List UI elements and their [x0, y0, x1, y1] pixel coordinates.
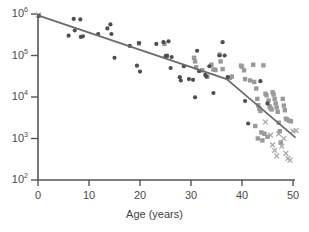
- data-point-square: [255, 97, 259, 101]
- data-point-square: [220, 67, 224, 71]
- data-point-square: [261, 63, 265, 67]
- data-point-circle: [161, 40, 165, 44]
- data-point-square: [278, 129, 282, 133]
- data-point-square: [251, 63, 255, 67]
- data-point-x: [263, 120, 268, 125]
- data-point-circle: [72, 17, 76, 21]
- data-point-circle: [169, 66, 173, 70]
- data-point-square: [272, 97, 276, 101]
- data-point-circle: [108, 22, 112, 26]
- data-point-circle: [191, 78, 195, 82]
- data-point-x: [274, 154, 279, 159]
- data-point-circle: [246, 121, 250, 125]
- data-point-circle: [223, 53, 227, 57]
- trend-line: [38, 15, 296, 137]
- data-point-square: [253, 124, 257, 128]
- y-tick-label: 104: [0, 89, 28, 102]
- data-point-circle: [170, 55, 174, 59]
- x-tick-label: 10: [74, 189, 104, 201]
- data-point-x: [272, 148, 277, 153]
- data-point-circle: [138, 69, 142, 73]
- data-point-circle: [81, 34, 85, 38]
- chart-figure: 102103104105106 01020304050 Age (years): [0, 0, 309, 232]
- x-tick-label: 20: [125, 189, 155, 201]
- data-point-square: [213, 68, 217, 72]
- data-series-circles: [37, 14, 270, 126]
- data-point-square: [254, 86, 258, 90]
- data-point-x: [288, 158, 293, 163]
- data-point-x: [281, 136, 286, 141]
- data-point-square: [274, 105, 278, 109]
- data-point-square: [283, 108, 287, 112]
- data-point-circle: [265, 101, 269, 105]
- x-tick-label: 30: [176, 189, 206, 201]
- data-point-square: [276, 110, 280, 114]
- data-point-circle: [193, 95, 197, 99]
- data-point-square: [264, 93, 268, 97]
- data-point-x: [283, 151, 288, 156]
- x-axis-title: Age (years): [0, 208, 309, 220]
- x-tick-label: 40: [227, 189, 257, 201]
- data-point-square: [230, 74, 234, 78]
- data-point-square: [279, 140, 283, 144]
- data-point-circle: [217, 53, 221, 57]
- data-point-circle: [109, 32, 113, 36]
- data-point-circle: [165, 54, 169, 58]
- data-point-circle: [195, 49, 199, 53]
- data-point-circle: [221, 40, 225, 44]
- data-point-square: [260, 138, 264, 142]
- data-point-square: [265, 135, 269, 139]
- x-axis-ticks: [38, 180, 293, 186]
- data-point-circle: [154, 42, 158, 46]
- data-point-circle: [135, 64, 139, 68]
- data-point-circle: [166, 39, 170, 43]
- data-point-circle: [105, 26, 109, 30]
- y-axis-ticks: [31, 14, 38, 180]
- data-point-square: [282, 103, 286, 107]
- data-point-circle: [207, 64, 211, 68]
- data-point-x: [270, 143, 275, 148]
- data-point-square: [289, 119, 293, 123]
- data-point-square: [256, 136, 260, 140]
- data-point-square: [242, 68, 246, 72]
- y-tick-label: 103: [0, 131, 28, 144]
- data-point-square: [218, 59, 222, 63]
- x-tick-label: 50: [278, 189, 308, 201]
- y-tick-label: 105: [0, 48, 28, 61]
- data-point-circle: [179, 78, 183, 82]
- data-point-square: [243, 77, 247, 81]
- data-point-square: [273, 101, 277, 105]
- data-point-circle: [258, 79, 262, 83]
- data-point-square: [252, 80, 256, 84]
- x-tick-label: 0: [23, 189, 53, 201]
- data-point-square: [248, 78, 252, 82]
- data-point-square: [281, 97, 285, 101]
- data-point-circle: [187, 77, 191, 81]
- data-point-circle: [211, 91, 215, 95]
- data-point-square: [193, 59, 197, 63]
- data-point-square: [271, 92, 275, 96]
- y-tick-label: 106: [0, 6, 28, 19]
- data-point-circle: [67, 34, 71, 38]
- y-tick-label: 102: [0, 172, 28, 185]
- data-point-circle: [78, 17, 82, 21]
- data-point-circle: [204, 75, 208, 79]
- data-point-circle: [243, 99, 247, 103]
- data-point-circle: [112, 56, 116, 60]
- data-point-square: [269, 107, 273, 111]
- data-point-circle: [137, 41, 141, 45]
